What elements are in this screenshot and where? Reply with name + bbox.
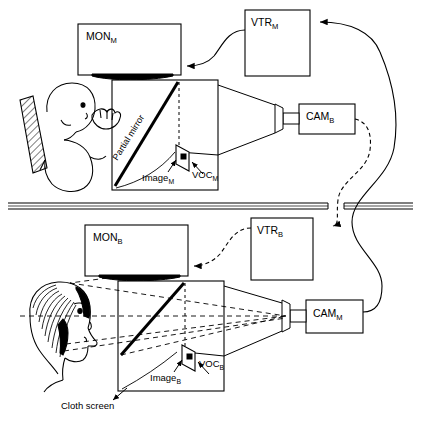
vtr-b-label: VTRB (257, 224, 283, 239)
infant-seat-backrest (20, 96, 47, 173)
vtr-m-label: VTRM (251, 16, 278, 31)
cloth-screen-label: Cloth screen (61, 400, 114, 411)
infant-figure (40, 83, 121, 191)
camera-m-label: CAMM (313, 307, 343, 322)
mother-head-figure (30, 282, 97, 392)
partition-wall (8, 203, 413, 209)
cable-vtr-m-to-mon-m (187, 30, 245, 66)
voc-m-label: VOCM (192, 169, 218, 182)
figure-canvas: MONM VTRM CAMB Partial mirror ImageM VOC… (0, 0, 421, 425)
cable-cam-m-to-vtr-m (320, 22, 396, 312)
cable-vtr-b-to-mon-b (194, 228, 251, 266)
cable-cam-b-to-vtr-b (333, 119, 370, 226)
image-b-label: ImageB (150, 372, 181, 385)
voc-b-label: VOCB (199, 358, 224, 371)
camera-b-label: CAMB (306, 110, 334, 125)
monitor-m-label: MONM (86, 30, 117, 45)
monitor-b-label: MONB (93, 231, 123, 246)
image-m-label: ImageM (142, 172, 174, 185)
